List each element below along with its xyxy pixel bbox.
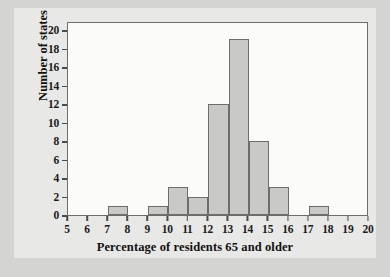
bar-group xyxy=(68,23,367,215)
x-axis-tick-label: 7 xyxy=(104,224,110,236)
figure-card: Number of states 02468101214161820 56789… xyxy=(14,8,376,258)
histogram-bar xyxy=(168,187,188,215)
histogram-bar xyxy=(269,187,289,215)
x-axis-tick-label: 14 xyxy=(242,224,253,236)
histogram-bar xyxy=(208,104,228,215)
x-axis-tick-mark xyxy=(106,216,108,221)
x-axis-title: Percentage of residents 65 and older xyxy=(14,240,376,255)
x-axis-tick-label: 19 xyxy=(342,224,353,236)
y-axis-tick-label: 16 xyxy=(48,62,62,74)
y-axis-tick-label: 12 xyxy=(48,99,62,111)
x-axis-tick-label: 15 xyxy=(262,224,273,236)
x-axis-tick-mark xyxy=(66,216,68,221)
x-axis-tick: 8 xyxy=(124,216,130,236)
x-axis-tick-mark xyxy=(167,216,169,221)
x-axis-tick: 5 xyxy=(64,216,70,236)
y-axis-tick-group: 02468101214161820 xyxy=(14,22,67,216)
x-axis-tick: 12 xyxy=(202,216,213,236)
y-axis-tick-label: 14 xyxy=(48,81,62,93)
x-axis-tick: 11 xyxy=(182,216,192,236)
histogram-bar xyxy=(148,206,168,215)
x-axis-tick-mark xyxy=(207,216,209,221)
x-axis-tick-mark xyxy=(267,216,269,221)
x-axis-tick-mark xyxy=(287,216,289,221)
histogram-bar xyxy=(188,197,208,215)
x-axis-tick: 13 xyxy=(222,216,233,236)
x-axis-tick: 15 xyxy=(262,216,273,236)
x-axis-tick-label: 5 xyxy=(64,224,70,236)
x-axis-tick-label: 11 xyxy=(182,224,192,236)
x-axis-tick-label: 20 xyxy=(362,224,373,236)
x-axis-tick-label: 16 xyxy=(282,224,293,236)
plot-area xyxy=(67,22,368,216)
x-axis-tick-mark xyxy=(147,216,149,221)
histogram-bar xyxy=(249,141,269,215)
x-axis-tick: 10 xyxy=(162,216,173,236)
x-axis-tick-mark xyxy=(86,216,88,221)
x-axis-tick-mark xyxy=(347,216,349,221)
y-axis-tick-label: 2 xyxy=(53,192,62,204)
x-axis-tick-label: 17 xyxy=(302,224,313,236)
x-axis-tick-label: 18 xyxy=(322,224,333,236)
y-axis-tick-label: 8 xyxy=(53,136,62,148)
x-axis-tick-label: 6 xyxy=(84,224,90,236)
y-axis-tick-label: 4 xyxy=(53,173,62,185)
histogram-bar xyxy=(108,206,128,215)
y-axis-tick-label: 10 xyxy=(48,118,62,130)
x-axis-tick-label: 12 xyxy=(202,224,213,236)
x-axis-tick-mark xyxy=(187,216,189,221)
y-axis-tick-label: 6 xyxy=(53,155,62,167)
x-axis-tick: 14 xyxy=(242,216,253,236)
x-axis-tick-label: 10 xyxy=(162,224,173,236)
x-axis-tick-mark xyxy=(307,216,309,221)
x-axis-tick-label: 9 xyxy=(144,224,150,236)
x-axis-tick-mark xyxy=(367,216,369,221)
x-axis-tick: 9 xyxy=(144,216,150,236)
y-axis-tick-label: 20 xyxy=(48,25,62,37)
histogram-bar xyxy=(229,39,249,215)
x-axis-tick: 18 xyxy=(322,216,333,236)
x-axis-tick: 20 xyxy=(362,216,373,236)
x-axis-tick: 7 xyxy=(104,216,110,236)
x-axis-tick: 6 xyxy=(84,216,90,236)
y-axis-tick-label: 0 xyxy=(53,210,62,222)
x-axis-tick: 17 xyxy=(302,216,313,236)
x-axis-tick-mark xyxy=(327,216,329,221)
x-axis-tick-mark xyxy=(247,216,249,221)
x-axis-tick: 16 xyxy=(282,216,293,236)
x-axis-tick-mark xyxy=(126,216,128,221)
x-axis-tick: 19 xyxy=(342,216,353,236)
y-axis-tick-label: 18 xyxy=(48,44,62,56)
x-axis-tick-mark xyxy=(227,216,229,221)
histogram-bar xyxy=(309,206,329,215)
x-axis-tick-label: 8 xyxy=(124,224,130,236)
x-axis-tick-label: 13 xyxy=(222,224,233,236)
